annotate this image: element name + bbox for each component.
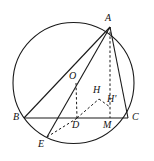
label-point-O: O	[69, 71, 76, 81]
geometry-figure: A B C O D M E H H'	[0, 0, 154, 161]
label-point-D: D	[72, 120, 79, 130]
geometry-canvas	[0, 0, 154, 161]
segment-AC	[110, 27, 128, 118]
label-point-E: E	[38, 139, 44, 149]
label-point-H: H	[93, 85, 100, 95]
segment-AB	[24, 27, 110, 118]
label-point-M: M	[103, 120, 111, 130]
segment-DH	[77, 99, 99, 118]
segment-OD	[76, 83, 77, 118]
label-point-A: A	[105, 13, 111, 23]
label-point-C: C	[132, 112, 139, 122]
label-point-H-prime: H'	[107, 94, 116, 104]
label-point-B: B	[13, 112, 19, 122]
